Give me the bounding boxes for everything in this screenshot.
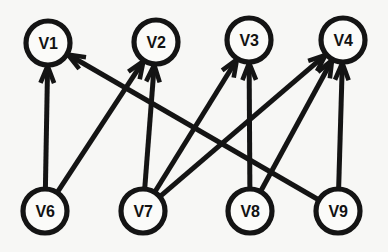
graph-canvas: V1V2V3V4V6V7V8V9 (0, 0, 388, 252)
node-label: V9 (328, 203, 347, 220)
node-label: V1 (38, 35, 57, 52)
edge-v7-to-v2 (145, 65, 160, 188)
node-v2[interactable]: V2 (134, 20, 178, 64)
edge-v7-to-v3 (155, 60, 237, 192)
node-v8[interactable]: V8 (228, 189, 272, 233)
node-v6[interactable]: V6 (23, 189, 67, 233)
node-v9[interactable]: V9 (316, 189, 360, 233)
node-label: V6 (35, 203, 54, 220)
node-v7[interactable]: V7 (121, 189, 165, 233)
edges-layer (40, 55, 348, 200)
node-label: V2 (146, 34, 165, 51)
node-v3[interactable]: V3 (227, 18, 271, 62)
edge-v6-to-v1 (40, 66, 54, 188)
node-label: V4 (333, 32, 352, 49)
edge-v9-to-v4 (335, 63, 349, 188)
node-v1[interactable]: V1 (26, 21, 70, 65)
edge-v9-to-v1 (68, 55, 318, 200)
node-label: V8 (240, 203, 259, 220)
node-label: V3 (239, 32, 258, 49)
node-v4[interactable]: V4 (321, 18, 365, 62)
edge-v6-to-v2 (58, 61, 144, 192)
node-label: V7 (133, 203, 152, 220)
directed-graph-figure: V1V2V3V4V6V7V8V9 (0, 0, 388, 252)
